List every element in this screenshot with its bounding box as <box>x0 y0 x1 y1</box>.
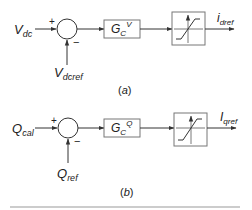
saturation-block-b <box>174 113 207 146</box>
caption-a: (a) <box>118 84 131 96</box>
diagram-b: Qcal + − Qref GCQ Iqref (b) <box>12 110 238 198</box>
plus-sign-b: + <box>51 115 57 126</box>
minus-sign-a: − <box>73 36 79 48</box>
minus-sign-b: − <box>74 135 80 147</box>
saturation-block-a <box>172 12 205 45</box>
reference-label-b: Qref <box>57 166 79 183</box>
diagram-a: Vdc + − Vdcref GCV idref (a) <box>14 11 234 96</box>
input-label-b: Qcal <box>12 121 35 138</box>
output-label-b: Iqref <box>220 110 238 126</box>
input-label-a: Vdc <box>14 22 33 39</box>
reference-label-a: Vdcref <box>54 65 84 82</box>
output-label-a: idref <box>217 11 234 27</box>
control-diagram: Vdc + − Vdcref GCV idref (a) Qcal + − Qr… <box>0 0 252 210</box>
plus-sign-a: + <box>49 16 55 27</box>
caption-b: (b) <box>120 186 133 198</box>
